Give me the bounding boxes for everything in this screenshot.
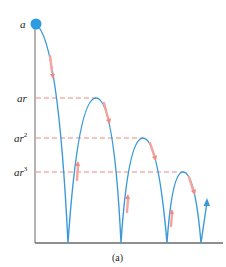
label-ar3: ar3	[14, 165, 28, 178]
up-arrow-1-icon	[77, 166, 78, 180]
figure-caption: (a)	[112, 252, 123, 264]
down-arrow-1-icon	[50, 56, 52, 72]
ball-trajectory	[36, 24, 207, 243]
down-arrow-3-icon	[150, 143, 154, 155]
bouncing-ball-diagram: a ar ar2 ar3 (a)	[0, 0, 226, 267]
down-arrow-4-icon	[189, 177, 193, 190]
down-arrow-2-icon	[104, 103, 108, 118]
up-arrow-2-icon	[127, 199, 128, 212]
label-ar2: ar2	[14, 131, 28, 144]
label-ar: ar	[17, 92, 28, 104]
up-arrow-3-icon	[171, 214, 172, 226]
ball	[31, 19, 42, 30]
arrowhead-up-icon	[204, 198, 211, 206]
label-a: a	[20, 18, 26, 30]
